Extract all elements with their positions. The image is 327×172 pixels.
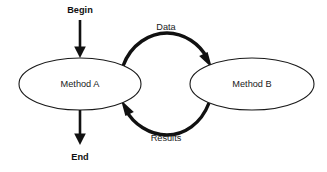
data-arc-path: [123, 33, 207, 66]
begin-arrow-head-icon: [74, 47, 86, 59]
method-a-label: Method A: [61, 79, 101, 89]
method-b-label: Method B: [232, 79, 271, 89]
edge-begin-to-method-a: [74, 20, 86, 58]
end-label: End: [71, 152, 88, 162]
results-edge-label: Results: [151, 133, 182, 143]
node-method-b[interactable]: Method B: [190, 58, 314, 110]
data-edge-label: Data: [156, 22, 176, 32]
edge-method-a-to-end: [74, 110, 86, 145]
edge-data-arc: [123, 33, 212, 68]
results-arc-path: [126, 103, 209, 135]
end-arrow-head-icon: [74, 134, 86, 146]
flow-diagram-canvas: Method A Method B Begin End Data Results: [0, 0, 327, 172]
node-method-a[interactable]: Method A: [19, 58, 141, 110]
edge-results-arc: [121, 100, 209, 135]
begin-label: Begin: [67, 5, 93, 15]
flow-diagram-svg: Method A Method B Begin End Data Results: [0, 0, 327, 172]
